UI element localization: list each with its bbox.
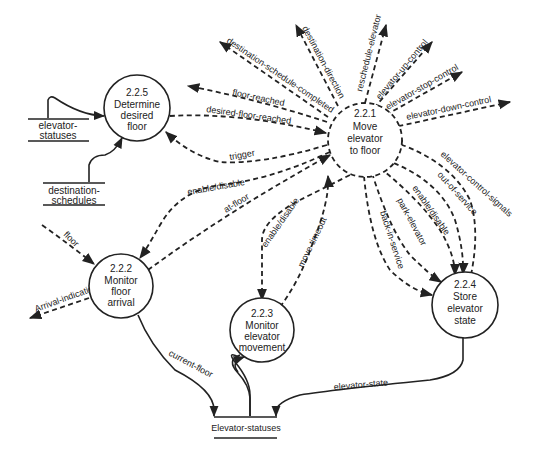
svg-text:Determine: Determine	[114, 99, 161, 110]
label-enable-disable-223: enable/disable	[259, 196, 300, 249]
svg-text:elevator: elevator	[347, 133, 383, 144]
svg-text:floor: floor	[127, 121, 147, 132]
process-2-2-4: 2.2.4 Store elevator state	[432, 272, 498, 338]
flow-move-timeout	[280, 176, 328, 307]
svg-text:elevator: elevator	[447, 303, 483, 314]
svg-text:to floor: to floor	[350, 145, 381, 156]
svg-text:Elevator-statuses: Elevator-statuses	[211, 423, 281, 433]
label-back-in-service: back-in-service	[378, 210, 406, 271]
svg-text:Monitor: Monitor	[245, 320, 279, 331]
flow-elevator-statuses-to-225	[48, 97, 104, 118]
svg-text:floor: floor	[111, 286, 131, 297]
process-2-2-2: 2.2.2 Monitor floor arrival	[89, 254, 153, 318]
svg-text:2.2.1: 2.2.1	[354, 108, 377, 119]
process-2-2-1: 2.2.1 Move elevator to floor	[328, 103, 402, 177]
svg-text:movement: movement	[239, 342, 286, 353]
svg-text:schedules: schedules	[51, 195, 96, 206]
label-elevator-state: elevator-state	[333, 377, 388, 392]
label-floor-reached: floor-reached	[232, 87, 286, 108]
label-floor: floor	[62, 229, 81, 248]
flow-elevator-state	[276, 336, 463, 416]
label-trigger: trigger	[229, 148, 256, 162]
svg-text:2.2.3: 2.2.3	[251, 308, 274, 319]
flow-destination-schedules-to-225	[89, 138, 122, 182]
svg-text:2.2.2: 2.2.2	[110, 263, 133, 274]
process-2-2-3: 2.2.3 Monitor elevator movement	[230, 298, 294, 362]
svg-text:2.2.4: 2.2.4	[454, 279, 477, 290]
svg-text:2.2.5: 2.2.5	[126, 87, 149, 98]
svg-text:Move: Move	[353, 121, 378, 132]
svg-text:Store: Store	[453, 291, 477, 302]
label-move-timeout: move-timeout	[296, 215, 329, 269]
label-elevator-down-control: elevator-down-control	[405, 94, 492, 122]
svg-text:Monitor: Monitor	[104, 275, 138, 286]
store-elevator-statuses-top: elevator- statuses	[28, 119, 89, 141]
label-enable-disable-222: enable/disable	[187, 177, 246, 197]
data-flow-diagram: destination-schedule-completed destinati…	[0, 0, 540, 455]
svg-text:desired: desired	[121, 110, 154, 121]
store-elevator-statuses-bottom: Elevator-statuses	[211, 417, 281, 438]
svg-text:state: state	[454, 315, 476, 326]
svg-text:arrival: arrival	[107, 297, 134, 308]
label-current-floor: current-floor	[167, 348, 215, 380]
svg-text:elevator: elevator	[244, 331, 280, 342]
svg-text:statuses: statuses	[39, 130, 76, 141]
process-2-2-5: 2.2.5 Determine desired floor	[104, 75, 170, 141]
label-desired-floor-reached: desired-floor-reached	[206, 104, 292, 126]
store-destination-schedules: destination- schedules	[43, 183, 105, 206]
